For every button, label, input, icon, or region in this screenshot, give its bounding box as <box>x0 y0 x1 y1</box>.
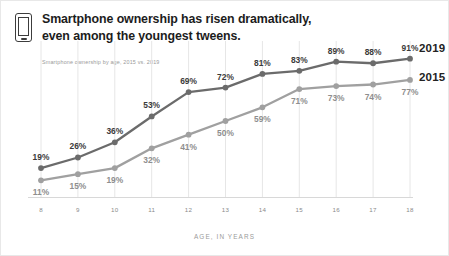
data-label-2015-12: 41% <box>180 142 197 152</box>
data-label-2019-10: 36% <box>106 126 123 136</box>
title-block: Smartphone ownership has risen dramatica… <box>42 11 311 45</box>
data-label-2019-12: 69% <box>180 76 197 86</box>
data-point <box>407 56 413 62</box>
x-tick-16: 16 <box>332 206 339 213</box>
series-label-2015: 2015 <box>419 71 445 83</box>
chart-figure: Smartphone ownership has risen dramatica… <box>0 0 449 256</box>
data-point <box>223 118 229 124</box>
data-label-2015-9: 15% <box>70 181 87 191</box>
smartphone-icon <box>15 13 32 42</box>
data-label-2019-8: 19% <box>33 152 50 162</box>
x-tick-9: 9 <box>76 206 80 213</box>
x-tick-13: 13 <box>222 206 229 213</box>
x-tick-11: 11 <box>148 206 155 213</box>
data-label-2015-13: 50% <box>217 128 234 138</box>
data-label-2019-14: 81% <box>254 58 271 68</box>
figure-header: Smartphone ownership has risen dramatica… <box>15 11 311 45</box>
x-tick-12: 12 <box>185 206 192 213</box>
x-tick-14: 14 <box>259 206 266 213</box>
data-label-2019-13: 72% <box>217 72 234 82</box>
data-label-2015-8: 11% <box>33 187 49 197</box>
data-label-2015-10: 19% <box>106 175 123 185</box>
x-axis-title: AGE, IN YEARS <box>1 233 448 240</box>
data-point <box>38 165 44 171</box>
data-point <box>407 77 413 83</box>
smartphone-screen <box>18 17 30 35</box>
x-tick-8: 8 <box>39 206 43 213</box>
data-point <box>186 132 192 138</box>
x-axis-baseline <box>28 197 413 198</box>
data-point <box>149 114 155 120</box>
data-label-2019-9: 26% <box>70 141 87 151</box>
smartphone-home-button <box>21 38 27 40</box>
x-tick-15: 15 <box>296 206 303 213</box>
data-point <box>260 71 266 77</box>
data-label-2015-15: 71% <box>291 96 308 106</box>
data-label-2015-17: 74% <box>365 92 382 102</box>
data-point <box>112 139 118 145</box>
data-label-2015-18: 77% <box>402 87 419 97</box>
chart-subtitle: Smartphone ownership by age, 2015 vs. 20… <box>42 59 160 65</box>
data-point <box>75 171 81 177</box>
data-point <box>296 86 302 92</box>
data-label-2015-14: 59% <box>254 114 271 124</box>
data-point <box>370 60 376 66</box>
data-point <box>112 165 118 171</box>
data-point <box>370 82 376 88</box>
data-point <box>333 59 339 65</box>
data-label-2015-16: 73% <box>328 93 345 103</box>
data-label-2019-16: 89% <box>328 46 345 56</box>
data-point <box>296 68 302 74</box>
data-label-2019-18: 91% <box>402 43 419 53</box>
data-label-2019-11: 53% <box>143 100 160 110</box>
data-point <box>75 155 81 161</box>
data-point <box>38 177 44 183</box>
data-point <box>223 85 229 91</box>
chart-title: Smartphone ownership has risen dramatica… <box>42 11 311 45</box>
data-label-2015-11: 32% <box>143 155 160 165</box>
x-tick-18: 18 <box>406 206 413 213</box>
series-label-2019: 2019 <box>419 42 445 54</box>
data-point <box>149 145 155 151</box>
x-tick-10: 10 <box>111 206 118 213</box>
data-label-2019-15: 83% <box>291 55 308 65</box>
data-point <box>333 83 339 89</box>
data-point <box>260 104 266 110</box>
x-tick-17: 17 <box>369 206 376 213</box>
data-point <box>186 89 192 95</box>
data-label-2019-17: 88% <box>365 47 382 57</box>
